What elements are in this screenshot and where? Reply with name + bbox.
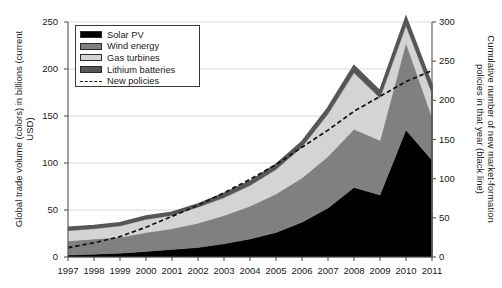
y-tick-left-250: 250 <box>32 16 58 27</box>
legend-swatch-icon <box>80 66 102 73</box>
legend: Solar PVWind energyGas turbinesLithium b… <box>75 25 200 87</box>
legend-swatch-icon <box>80 43 102 50</box>
y-tick-left-100: 100 <box>32 157 58 168</box>
legend-label: Gas turbines <box>107 53 160 63</box>
legend-swatch-icon <box>80 54 102 61</box>
y-tick-left-200: 200 <box>32 63 58 74</box>
chart-container: Global trade volume (colors) in billions… <box>0 0 502 288</box>
legend-label: Solar PV <box>107 30 144 40</box>
y-tick-right-250: 250 <box>439 55 465 66</box>
legend-label: New policies <box>107 76 159 86</box>
legend-item-gas-turbines[interactable]: Gas turbines <box>80 52 195 64</box>
y-tick-right-50: 50 <box>439 212 465 223</box>
legend-item-wind-energy[interactable]: Wind energy <box>80 41 195 53</box>
legend-label: Lithium batteries <box>107 65 175 75</box>
y-tick-left-50: 50 <box>32 204 58 215</box>
y-tick-left-150: 150 <box>32 110 58 121</box>
y-tick-right-200: 200 <box>439 94 465 105</box>
y-tick-right-100: 100 <box>439 173 465 184</box>
x-tick-2011: 2011 <box>417 265 447 276</box>
legend-item-lithium-batteries[interactable]: Lithium batteries <box>80 64 195 76</box>
legend-item-new-policies[interactable]: New policies <box>80 75 195 87</box>
y-tick-right-0: 0 <box>439 251 465 262</box>
legend-dashed-line-icon <box>80 78 102 85</box>
y-tick-right-300: 300 <box>439 16 465 27</box>
legend-item-solar-pv[interactable]: Solar PV <box>80 29 195 41</box>
y-tick-right-150: 150 <box>439 134 465 145</box>
y-tick-left-0: 0 <box>32 251 58 262</box>
legend-swatch-icon <box>80 31 102 38</box>
legend-label: Wind energy <box>107 41 159 51</box>
